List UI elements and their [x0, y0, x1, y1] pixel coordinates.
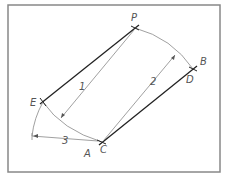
label-dimension-3: 3: [62, 135, 68, 146]
arc-ec: [43, 102, 102, 142]
line-cd: [99, 66, 197, 145]
arc-pd: [135, 28, 193, 69]
label-p: P: [131, 12, 138, 23]
dimension-line-2: [104, 55, 175, 140]
label-b: B: [200, 56, 207, 67]
label-d: D: [186, 74, 194, 85]
label-c: C: [100, 144, 107, 155]
arrowhead-3: [33, 134, 38, 138]
dimension-line-1: [61, 30, 134, 118]
line-ep: [40, 25, 139, 104]
label-a: A: [83, 148, 91, 159]
label-dimension-1: 1: [79, 81, 85, 92]
label-dimension-2: 2: [150, 76, 156, 87]
label-e: E: [30, 97, 37, 108]
diagram-frame: [8, 5, 220, 172]
geometry-diagram: P B D E C A 1 2 3: [0, 0, 227, 179]
